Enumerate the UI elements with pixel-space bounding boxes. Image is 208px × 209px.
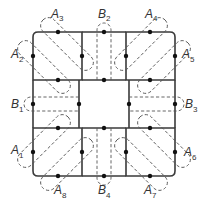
label-a3: A 3 xyxy=(50,7,64,23)
svg-text:A: A xyxy=(181,47,190,61)
svg-text:B: B xyxy=(98,7,106,21)
svg-text:3: 3 xyxy=(193,105,198,114)
label-b4: B 4 xyxy=(98,183,111,200)
svg-text:4: 4 xyxy=(153,14,158,23)
svg-text:B: B xyxy=(185,97,193,111)
label-a4: A 4 xyxy=(144,7,158,23)
point xyxy=(56,78,60,82)
svg-text:3: 3 xyxy=(59,14,64,23)
point xyxy=(173,102,177,106)
point xyxy=(173,150,177,154)
svg-text:2: 2 xyxy=(106,14,111,23)
point xyxy=(56,174,60,178)
label-a7: A 7 xyxy=(143,183,157,200)
point xyxy=(77,102,81,106)
point xyxy=(102,30,106,34)
svg-text:B: B xyxy=(98,183,106,197)
svg-text:A: A xyxy=(53,183,62,197)
loop-a7 xyxy=(111,134,170,193)
point xyxy=(56,30,60,34)
point xyxy=(127,102,131,106)
label-a8: A 8 xyxy=(53,183,67,200)
point xyxy=(102,78,106,82)
point xyxy=(148,78,152,82)
svg-text:7: 7 xyxy=(152,191,157,200)
label-b1: B 1 xyxy=(11,97,24,114)
point xyxy=(80,150,84,154)
svg-text:B: B xyxy=(11,97,19,111)
point xyxy=(148,174,152,178)
svg-text:A: A xyxy=(50,7,59,21)
label-b2: B 2 xyxy=(98,7,111,23)
loop-a4 xyxy=(111,14,170,73)
svg-text:8: 8 xyxy=(62,191,67,200)
point xyxy=(31,102,35,106)
svg-text:A: A xyxy=(144,7,153,21)
loop-a3 xyxy=(37,14,96,73)
bottom-left-cell xyxy=(33,128,82,176)
top-right-cell xyxy=(126,32,175,80)
svg-text:6: 6 xyxy=(192,153,197,162)
diagram-canvas: A 3 B 2 A 4 A 2 A 5 B 1 B 3 A 1 A 6 A 8 … xyxy=(0,0,208,209)
point xyxy=(102,174,106,178)
bottom-right-cell xyxy=(126,128,175,176)
points xyxy=(31,30,177,178)
point xyxy=(80,54,84,58)
svg-text:A: A xyxy=(183,145,192,159)
point xyxy=(124,150,128,154)
point xyxy=(148,126,152,130)
svg-text:A: A xyxy=(10,143,19,157)
point xyxy=(148,30,152,34)
svg-text:A: A xyxy=(143,183,152,197)
label-a5: A 5 xyxy=(181,47,195,64)
loop-a6 xyxy=(134,111,193,170)
label-b3: B 3 xyxy=(185,97,198,114)
svg-text:A: A xyxy=(10,47,19,61)
point xyxy=(56,126,60,130)
point xyxy=(31,150,35,154)
point xyxy=(102,126,106,130)
svg-text:1: 1 xyxy=(19,105,24,114)
svg-text:5: 5 xyxy=(190,55,195,64)
point xyxy=(31,54,35,58)
loop-a2 xyxy=(14,37,73,96)
label-a2: A 2 xyxy=(10,47,24,64)
loop-a1 xyxy=(14,111,73,170)
label-a1: A 1 xyxy=(10,143,24,160)
svg-text:2: 2 xyxy=(19,55,24,64)
point xyxy=(173,54,177,58)
loop-a8 xyxy=(37,134,96,193)
svg-text:1: 1 xyxy=(19,151,24,160)
svg-text:4: 4 xyxy=(106,191,111,200)
point xyxy=(124,54,128,58)
top-left-cell xyxy=(33,32,82,80)
